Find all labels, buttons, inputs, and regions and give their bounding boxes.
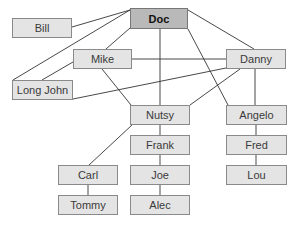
edge-nutsy-carl — [89, 125, 132, 165]
node-carl: Carl — [58, 165, 118, 185]
node-doc: Doc — [130, 8, 188, 29]
node-nutsy: Nutsy — [130, 105, 190, 125]
edge-mike-nutsy — [102, 69, 131, 105]
node-lou: Lou — [226, 165, 287, 185]
node-fred: Fred — [226, 135, 287, 155]
node-tommy: Tommy — [58, 195, 118, 215]
edge-doc-bill — [72, 10, 130, 27]
node-mike: Mike — [73, 49, 132, 69]
edge-doc-danny — [188, 10, 254, 49]
node-joe: Joe — [130, 165, 190, 185]
edge-doc-angelo — [188, 29, 228, 105]
node-alec: Alec — [130, 195, 190, 215]
edge-mike-longjohn — [42, 62, 73, 80]
edge-doc-mike — [106, 28, 130, 49]
node-angelo: Angelo — [226, 105, 287, 125]
node-long-john: Long John — [12, 80, 73, 100]
node-frank: Frank — [130, 135, 190, 155]
edge-longjohn-danny — [73, 68, 226, 99]
edge-danny-nutsy — [190, 69, 240, 105]
node-danny: Danny — [226, 49, 286, 69]
node-bill: Bill — [12, 18, 72, 38]
